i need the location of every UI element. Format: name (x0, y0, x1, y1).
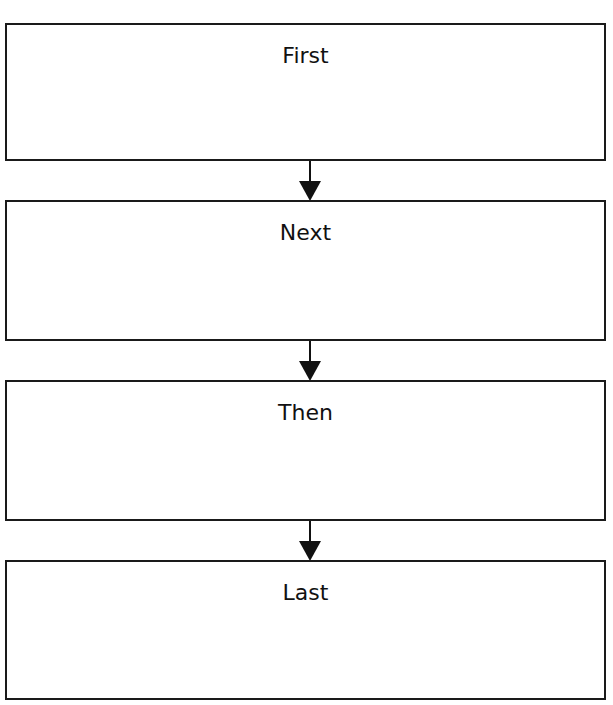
step-box-first: First (5, 23, 606, 161)
step-box-next: Next (5, 200, 606, 341)
arrow-down-icon (299, 161, 321, 201)
step-label: Next (7, 220, 604, 245)
step-box-then: Then (5, 380, 606, 521)
step-box-last: Last (5, 560, 606, 700)
arrow-down-icon (299, 521, 321, 561)
arrow-down-icon (299, 341, 321, 381)
step-label: Last (7, 580, 604, 605)
step-label: First (7, 43, 604, 68)
step-label: Then (7, 400, 604, 425)
